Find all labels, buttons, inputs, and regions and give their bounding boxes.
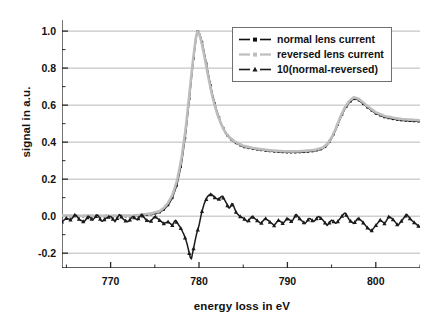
series-marker (380, 113, 382, 115)
y-tick-label: 0.4 (16, 136, 56, 148)
series-marker (365, 104, 367, 106)
series-line (62, 194, 419, 259)
series-marker (150, 212, 152, 214)
y-tick-label: 1.0 (16, 25, 56, 37)
series-marker (62, 214, 63, 216)
eels-spectrum-figure: signal in a.u. energy loss in eV -0.20.0… (0, 0, 440, 329)
series-marker (306, 149, 308, 151)
x-tick-label: 770 (89, 275, 133, 287)
series-marker (343, 108, 345, 110)
x-tick-label: 790 (265, 275, 309, 287)
series-marker (232, 139, 234, 141)
series-marker (328, 140, 330, 142)
series-marker (291, 150, 293, 152)
series-marker (194, 39, 196, 41)
series-marker (264, 216, 268, 220)
series-marker (321, 147, 323, 149)
series-marker (276, 218, 280, 222)
series-marker (284, 150, 286, 152)
y-tick-label: 0.2 (16, 173, 56, 185)
series-marker (135, 214, 137, 216)
legend-item: normal lens current (238, 32, 384, 47)
series-marker (402, 118, 404, 120)
series-marker (246, 146, 248, 148)
series-marker (105, 214, 107, 216)
series-marker (68, 214, 70, 216)
series-marker (313, 149, 315, 151)
x-tick-label: 800 (354, 275, 398, 287)
series-marker (166, 220, 170, 224)
series-marker (417, 119, 419, 121)
series-marker (202, 48, 204, 50)
series-marker (239, 143, 241, 145)
legend-item: reversed lens current (238, 47, 384, 62)
series-marker (200, 209, 204, 213)
series-marker (254, 147, 256, 149)
series-marker (91, 214, 93, 216)
series-marker (191, 246, 195, 250)
series-marker (234, 210, 238, 214)
series-marker (113, 215, 115, 217)
series-marker (373, 110, 375, 112)
series-marker (378, 218, 382, 222)
series-marker (128, 215, 130, 217)
series-marker (298, 150, 300, 152)
series-marker (224, 131, 226, 133)
legend-line-sample (238, 34, 272, 45)
x-axis-title: energy loss in eV (62, 300, 422, 312)
series-marker (83, 215, 85, 217)
y-tick-label: -0.2 (16, 247, 56, 259)
series-marker (183, 235, 187, 239)
legend-box: normal lens currentreversed lens current… (232, 27, 392, 82)
series-marker (350, 98, 352, 100)
y-tick-label: 0.0 (16, 210, 56, 222)
series-marker (336, 125, 338, 127)
series-marker (358, 98, 360, 100)
y-tick-label: 0.8 (16, 62, 56, 74)
x-tick-label: 780 (177, 275, 221, 287)
series-marker (180, 161, 182, 163)
series-marker (276, 150, 278, 152)
legend-label: normal lens current (277, 34, 375, 45)
series-marker (196, 228, 200, 232)
series-marker (172, 191, 174, 193)
series-marker (187, 104, 189, 106)
series-marker (395, 117, 397, 119)
series-marker (217, 114, 219, 116)
legend-label: reversed lens current (277, 49, 384, 60)
series-marker (165, 204, 167, 206)
legend-label: 10(normal-reversed) (277, 64, 378, 75)
legend-line-sample (238, 49, 272, 60)
legend-line-sample (238, 64, 272, 75)
legend-item: 10(normal-reversed) (238, 62, 384, 77)
series-marker (261, 148, 263, 150)
y-tick-label: 0.6 (16, 99, 56, 111)
series-marker (388, 116, 390, 118)
series-marker (269, 149, 271, 151)
series-marker (209, 86, 211, 88)
series-marker (157, 210, 159, 212)
series-marker (410, 119, 412, 121)
